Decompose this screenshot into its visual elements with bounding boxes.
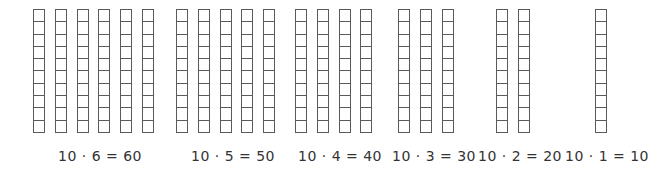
unit-cube (442, 96, 454, 108)
ten-rod (398, 9, 410, 133)
unit-cube (317, 84, 329, 96)
unit-cube (142, 108, 154, 120)
unit-cube (198, 59, 210, 71)
unit-cube (360, 84, 372, 96)
unit-cube (120, 71, 132, 83)
unit-cube (77, 47, 89, 59)
ten-rod (317, 9, 329, 133)
ten-rod (33, 9, 45, 133)
unit-cube (496, 22, 508, 34)
unit-cube (317, 71, 329, 83)
unit-cube (595, 22, 607, 34)
unit-cube (263, 121, 275, 133)
unit-cube (77, 84, 89, 96)
unit-cube (595, 59, 607, 71)
unit-cube (420, 9, 432, 22)
unit-cube (339, 35, 351, 47)
unit-cube (420, 47, 432, 59)
unit-cube (198, 47, 210, 59)
unit-cube (77, 59, 89, 71)
unit-cube (198, 121, 210, 133)
unit-cube (220, 108, 232, 120)
unit-cube (120, 22, 132, 34)
unit-cube (98, 22, 110, 34)
ten-rod (496, 9, 508, 133)
ten-rod (518, 9, 530, 133)
unit-cube (55, 108, 67, 120)
unit-cube (263, 47, 275, 59)
unit-cube (176, 121, 188, 133)
unit-cube (420, 71, 432, 83)
unit-cube (518, 22, 530, 34)
unit-cube (360, 108, 372, 120)
unit-cube (176, 35, 188, 47)
unit-cube (442, 9, 454, 22)
unit-cube (595, 9, 607, 22)
unit-cube (241, 47, 253, 59)
unit-cube (442, 108, 454, 120)
unit-cube (220, 47, 232, 59)
unit-cube (77, 96, 89, 108)
unit-cube (360, 121, 372, 133)
unit-cube (176, 71, 188, 83)
unit-cube (220, 35, 232, 47)
unit-cube (241, 71, 253, 83)
unit-cube (241, 96, 253, 108)
unit-cube (442, 71, 454, 83)
unit-cube (339, 47, 351, 59)
unit-cube (98, 47, 110, 59)
unit-cube (142, 121, 154, 133)
unit-cube (295, 96, 307, 108)
unit-cube (198, 71, 210, 83)
unit-cube (518, 9, 530, 22)
unit-cube (33, 47, 45, 59)
unit-cube (98, 121, 110, 133)
unit-cube (398, 59, 410, 71)
unit-cube (241, 22, 253, 34)
equation-label: 10 · 4 = 40 (298, 148, 382, 164)
unit-cube (360, 47, 372, 59)
unit-cube (518, 84, 530, 96)
unit-cube (98, 35, 110, 47)
unit-cube (55, 35, 67, 47)
unit-cube (420, 108, 432, 120)
unit-cube (77, 71, 89, 83)
unit-cube (98, 9, 110, 22)
ten-rod (142, 9, 154, 133)
unit-cube (142, 22, 154, 34)
unit-cube (142, 47, 154, 59)
unit-cube (33, 71, 45, 83)
unit-cube (595, 71, 607, 83)
unit-cube (198, 108, 210, 120)
unit-cube (518, 121, 530, 133)
unit-cube (295, 59, 307, 71)
unit-cube (339, 22, 351, 34)
unit-cube (263, 71, 275, 83)
unit-cube (55, 22, 67, 34)
unit-cube (33, 35, 45, 47)
unit-cube (55, 121, 67, 133)
unit-cube (496, 9, 508, 22)
unit-cube (120, 35, 132, 47)
unit-cube (220, 84, 232, 96)
unit-cube (317, 22, 329, 34)
unit-cube (496, 96, 508, 108)
unit-cube (220, 9, 232, 22)
unit-cube (263, 96, 275, 108)
unit-cube (317, 47, 329, 59)
unit-cube (120, 121, 132, 133)
unit-cube (496, 84, 508, 96)
equation-label: 10 · 6 = 60 (58, 148, 142, 164)
ten-rod (420, 9, 432, 133)
unit-cube (142, 84, 154, 96)
ten-rod (198, 9, 210, 133)
unit-cube (317, 108, 329, 120)
unit-cube (98, 108, 110, 120)
unit-cube (176, 96, 188, 108)
unit-cube (398, 35, 410, 47)
unit-cube (595, 35, 607, 47)
unit-cube (295, 108, 307, 120)
unit-cube (55, 71, 67, 83)
unit-cube (241, 35, 253, 47)
unit-cube (220, 59, 232, 71)
